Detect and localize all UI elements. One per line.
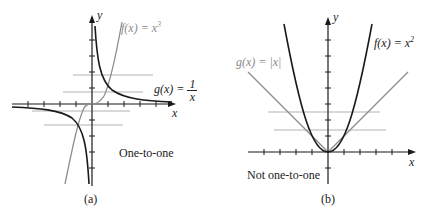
curve-label-g-reciprocal: g(x) = 1x — [154, 78, 197, 103]
verdict-label-b: Not one-to-one — [247, 168, 320, 183]
x-axis-b — [248, 149, 416, 155]
curve-label-g-absolute: g(x) = |x| — [236, 55, 281, 70]
curve-g-reciprocal-left — [12, 107, 89, 184]
caption-a: (a) — [84, 192, 97, 207]
x-axis-label-a: x — [172, 106, 177, 121]
curve-f-cubic — [65, 22, 122, 184]
verdict-label-a: One-to-one — [119, 146, 174, 161]
horizontal-test-lines-b — [268, 112, 386, 130]
x-axis-label-b: x — [409, 155, 414, 170]
y-axis-label-a: y — [97, 8, 102, 23]
y-axis-label-b: y — [333, 10, 338, 25]
curve-label-f-cubic: f(x) = x3 — [121, 20, 161, 36]
caption-b: (b) — [321, 192, 335, 207]
y-axis-a — [89, 15, 95, 186]
curve-label-f-square: f(x) = x2 — [374, 35, 414, 51]
figure-canvas — [0, 0, 422, 217]
y-axis-b — [325, 17, 331, 184]
